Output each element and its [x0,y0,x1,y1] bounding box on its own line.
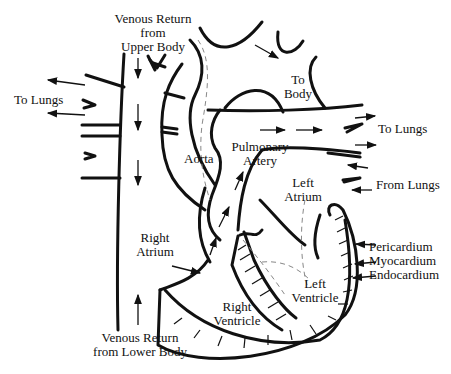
heart-diagram: Venous Return from Upper Body To Lungs T… [0,0,451,374]
label-endocardium: Endocardium [369,268,439,282]
label-aorta: Aorta [184,152,214,166]
label-from-lungs: From Lungs [376,178,440,192]
label-left-ventricle: Left Ventricle [290,277,340,305]
label-left-atrium: Left Atrium [283,176,323,204]
label-myocardium: Myocardium [369,254,436,268]
label-right-ventricle: Right Ventricle [212,300,262,328]
label-venous-upper: Venous Return from Upper Body [98,12,208,54]
vena-cava-left-wall [117,54,124,330]
label-right-atrium: Right Atrium [133,231,177,259]
label-to-body: To Body [283,73,313,101]
label-venous-lower: Venous Return from Lower Body [88,331,192,359]
label-pulmonary-artery: Pulmonary Artery [228,140,292,168]
label-pericardium: Pericardium [369,240,433,254]
label-to-lungs-right: To Lungs [378,122,427,136]
label-to-lungs-left: To Lungs [14,93,63,107]
